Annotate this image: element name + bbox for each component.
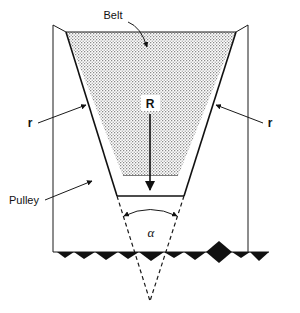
radius-major-label: R xyxy=(146,97,155,111)
radius-right-leader-line xyxy=(216,105,263,123)
radius-left-leader-line xyxy=(38,105,86,123)
pulley-belt-diagram: R Belt r r Pulley α xyxy=(0,0,300,313)
radius-right-label: r xyxy=(268,116,273,130)
angle-construction-lines xyxy=(117,196,184,301)
ground-tooth xyxy=(164,252,184,258)
angle-alpha-indicator xyxy=(124,210,177,217)
angle-arc xyxy=(124,210,177,217)
ground-tooth xyxy=(139,252,164,261)
angle-alpha-label: α xyxy=(148,225,156,240)
pulley-left-rim-top xyxy=(53,25,66,32)
ground-tooth xyxy=(184,252,206,260)
diagram-canvas: R Belt r r Pulley α xyxy=(0,0,300,313)
radius-right-callout: r xyxy=(216,105,273,130)
ground-tooth xyxy=(206,241,232,252)
radius-left-callout: r xyxy=(28,105,86,130)
angle-alpha-label-group: α xyxy=(148,225,156,240)
ground-tooth xyxy=(95,252,118,260)
pulley-leader-line xyxy=(45,181,92,200)
pulley-callout: Pulley xyxy=(9,181,92,206)
pulley-right-rim-top xyxy=(236,25,248,32)
ground-tooth xyxy=(232,252,250,258)
ground-tooth xyxy=(250,252,269,261)
ground-tooth xyxy=(57,252,74,258)
section-hatch-ground xyxy=(53,241,269,263)
pulley-label: Pulley xyxy=(9,194,39,206)
ground-tooth xyxy=(206,252,232,263)
ground-teeth xyxy=(57,241,269,263)
belt-label: Belt xyxy=(104,9,123,21)
ground-tooth xyxy=(74,252,95,259)
radius-left-label: r xyxy=(28,116,33,130)
